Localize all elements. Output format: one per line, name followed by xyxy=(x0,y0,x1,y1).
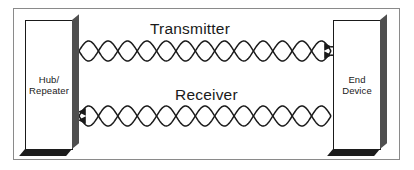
conductor-1 xyxy=(79,41,331,61)
label-receiver: Receiver xyxy=(175,86,238,104)
hub-shadow-right xyxy=(72,14,79,149)
node-hub-repeater[interactable]: Hub/ Repeater xyxy=(25,20,73,150)
conductor-2 xyxy=(79,41,331,61)
conductor-2 xyxy=(79,106,331,126)
end-device-shadow-right xyxy=(380,14,387,149)
hub-shadow-bottom xyxy=(19,149,72,156)
label-transmitter: Transmitter xyxy=(150,20,230,38)
node-hub-repeater-label: Hub/ Repeater xyxy=(29,74,69,97)
end-device-shadow-bottom xyxy=(327,149,380,156)
node-end-device-label: End Device xyxy=(342,74,372,97)
node-end-device[interactable]: End Device xyxy=(333,20,381,150)
twisted-pair-diagram: Hub/ Repeater End Device Transmitter Rec… xyxy=(0,0,414,170)
conductor-1 xyxy=(79,106,331,126)
